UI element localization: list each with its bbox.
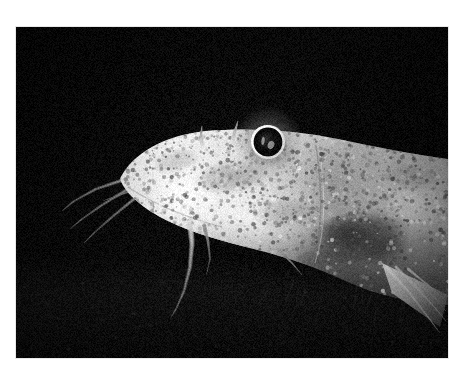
photograph: [16, 27, 448, 358]
catfish-photo-canvas: [16, 27, 448, 358]
page-root: Close-up grayscale photograph of a catfi…: [0, 0, 464, 379]
